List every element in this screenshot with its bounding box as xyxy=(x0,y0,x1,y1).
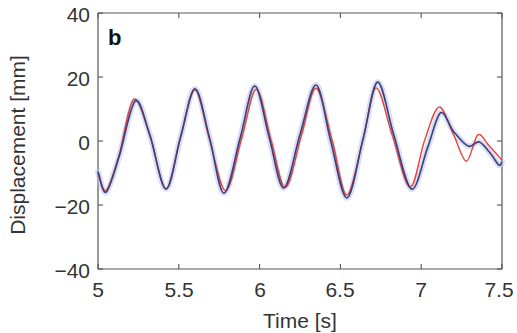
y-tick-label: −20 xyxy=(54,195,90,218)
y-tick-labels: 40 20 0 −20 −40 xyxy=(54,3,90,282)
x-tick-label: 6 xyxy=(254,278,266,301)
y-tick-label: −40 xyxy=(54,259,90,282)
panel-label: b xyxy=(108,25,121,50)
y-tick-label: 20 xyxy=(67,67,90,90)
x-tick-label: 6.5 xyxy=(325,278,354,301)
y-axis-title: Displacement [mm] xyxy=(6,55,29,235)
y-tick-label: 40 xyxy=(67,3,90,26)
x-tick-label: 5.5 xyxy=(164,278,193,301)
x-tick-label: 7 xyxy=(415,278,427,301)
x-tick-labels: 5 5.5 6 6.5 7 7.5 xyxy=(92,278,513,301)
y-tick-label: 0 xyxy=(78,131,90,154)
x-tick-label: 5 xyxy=(92,278,104,301)
x-axis-title: Time [s] xyxy=(263,309,337,332)
displacement-chart: b 40 20 0 −20 −40 5 5.5 6 6.5 7 7.5 Time… xyxy=(0,0,517,333)
x-tick-label: 7.5 xyxy=(484,278,513,301)
plot-area xyxy=(98,82,502,198)
